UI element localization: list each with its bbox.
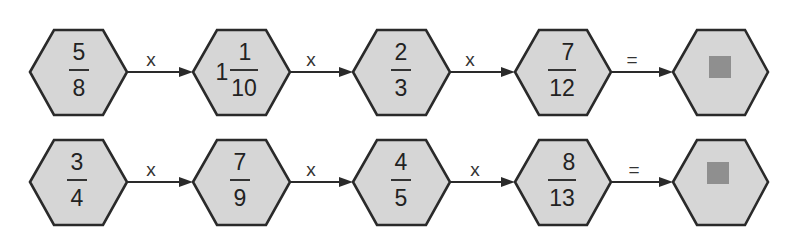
denominator: 5 (395, 185, 408, 211)
term-hexagon: 4 5 (353, 140, 450, 225)
operator-equals: = (626, 49, 637, 70)
term-hexagon: 8 13 (515, 140, 611, 225)
unknown-answer-box (707, 162, 729, 184)
denominator: 4 (71, 185, 84, 211)
numerator: 2 (395, 39, 408, 65)
operator-times: x (306, 159, 316, 180)
connector-2-4: = (611, 159, 673, 187)
term-hexagon: 1 1 10 (193, 30, 290, 115)
connector-1-4: = (611, 49, 673, 77)
denominator: 9 (234, 185, 247, 211)
term-hexagon: 7 12 (515, 30, 611, 115)
fraction-multiplication-chains: x x x = 5 8 1 1 10 (0, 0, 793, 237)
term-hexagon: 2 3 (353, 30, 450, 115)
connector-2-2: x (290, 159, 353, 187)
connector-1-3: x (450, 49, 515, 77)
term-hexagon: 5 8 (30, 30, 127, 115)
connector-2-3: x (450, 159, 515, 187)
denominator: 13 (549, 185, 575, 211)
operator-times: x (146, 159, 156, 180)
numerator: 4 (395, 149, 408, 175)
answer-hexagon (673, 140, 768, 225)
denominator: 12 (549, 75, 575, 101)
operator-times: x (470, 159, 480, 180)
operator-times: x (306, 49, 316, 70)
operator-times: x (146, 49, 156, 70)
denominator: 3 (395, 75, 408, 101)
numerator: 7 (562, 39, 575, 65)
numerator: 1 (239, 39, 252, 65)
connector-2-1: x (127, 159, 193, 187)
connector-1-1: x (127, 49, 193, 77)
numerator: 7 (234, 149, 247, 175)
unknown-answer-box (709, 56, 731, 78)
row-1: x x x = 5 8 1 1 10 (30, 30, 768, 115)
numerator: 3 (71, 149, 84, 175)
term-hexagon: 7 9 (193, 140, 290, 225)
numerator: 5 (73, 39, 86, 65)
whole-number: 1 (216, 59, 229, 85)
operator-times: x (465, 49, 475, 70)
answer-hexagon (673, 30, 768, 115)
term-hexagon: 3 4 (30, 140, 127, 225)
operator-equals: = (628, 159, 639, 180)
row-2: x x x = 3 4 7 9 (30, 140, 768, 225)
numerator: 8 (563, 149, 576, 175)
connector-1-2: x (290, 49, 353, 77)
denominator: 8 (73, 75, 86, 101)
denominator: 10 (231, 75, 257, 101)
